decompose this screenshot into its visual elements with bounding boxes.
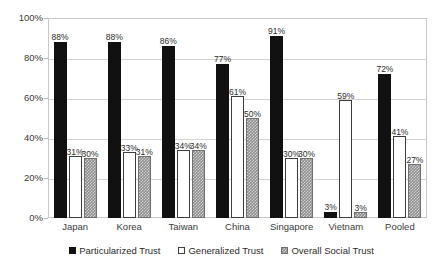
legend-label: Overall Social Trust [291,246,373,256]
bar-slot: 34% [192,18,205,218]
bar-value-label: 3% [355,204,367,213]
bar[interactable]: 77% [216,64,229,218]
bar[interactable]: 3% [354,212,367,218]
bar-slot: 50% [246,18,259,218]
bar-value-label: 3% [325,203,337,212]
bar-slot: 3% [324,18,337,218]
y-axis-tick-mark [44,218,48,219]
bar-slot: 88% [54,18,67,218]
bar-value-label: 30% [82,150,99,159]
bar-slot: 61% [231,18,244,218]
bar-slot: 41% [393,18,406,218]
bar-slot: 31% [138,18,151,218]
y-axis-tick-label: 40% [0,133,43,143]
bar[interactable]: 27% [408,164,421,218]
bar-value-label: 72% [376,65,393,74]
legend-item[interactable]: Particularized Trust [69,246,160,256]
bar[interactable]: 88% [108,42,121,218]
bar-value-label: 41% [391,128,408,137]
bar-value-label: 27% [406,156,423,165]
bar-chart: 0%20%40%60%80%100% 88%31%30%88%33%31%86%… [0,0,443,265]
bar[interactable]: 34% [192,150,205,218]
x-axis: JapanKoreaTaiwanChinaSingaporeVietnamPoo… [48,222,427,232]
bar-slot: 34% [177,18,190,218]
bar-group: 88%33%31% [102,18,156,218]
bar[interactable]: 59% [339,100,352,218]
bar-value-label: 30% [298,150,315,159]
y-axis-tick-label: 100% [0,13,43,23]
bar[interactable]: 33% [123,152,136,218]
legend-label: Particularized Trust [79,246,160,256]
x-axis-tick-label: Singapore [265,222,319,232]
bar[interactable]: 3% [324,212,337,218]
bar-value-label: 31% [136,148,153,157]
legend-swatch-icon [178,247,185,254]
chart-legend: Particularized TrustGeneralized TrustOve… [0,246,443,256]
bar-slot: 88% [108,18,121,218]
y-axis-tick-label: 60% [0,93,43,103]
legend-swatch-icon [69,247,76,254]
bar-slot: 31% [69,18,82,218]
bar-group: 77%61%50% [210,18,264,218]
bar[interactable]: 41% [393,136,406,218]
bar[interactable]: 31% [138,156,151,218]
bar-value-label: 77% [214,55,231,64]
bar[interactable]: 88% [54,42,67,218]
y-axis-tick-label: 20% [0,173,43,183]
bar[interactable]: 30% [300,158,313,218]
bar[interactable]: 31% [69,156,82,218]
bar-slot: 3% [354,18,367,218]
bar[interactable]: 30% [285,158,298,218]
bar-slot: 59% [339,18,352,218]
bar-value-label: 91% [268,27,285,36]
bar-group: 91%30%30% [265,18,319,218]
bar-slot: 30% [84,18,97,218]
bar-value-label: 61% [229,88,246,97]
bar[interactable]: 30% [84,158,97,218]
bar-slot: 27% [408,18,421,218]
bar-group: 3%59%3% [319,18,373,218]
x-axis-tick-label: Vietnam [319,222,373,232]
bar-value-label: 34% [190,142,207,151]
legend-label: Generalized Trust [188,246,263,256]
bar-slot: 91% [270,18,283,218]
bar-slot: 30% [300,18,313,218]
bar-slot: 30% [285,18,298,218]
bar[interactable]: 91% [270,36,283,218]
bar-value-label: 59% [337,92,354,101]
bar[interactable]: 61% [231,96,244,218]
bar-slot: 72% [378,18,391,218]
y-axis-tick-label: 0% [0,213,43,223]
bar[interactable]: 34% [177,150,190,218]
x-axis-tick-label: Taiwan [156,222,210,232]
bar[interactable]: 50% [246,118,259,218]
x-axis-tick-label: Korea [102,222,156,232]
legend-item[interactable]: Overall Social Trust [281,246,373,256]
legend-swatch-icon [281,247,288,254]
bar-value-label: 86% [160,37,177,46]
bar-slot: 77% [216,18,229,218]
bar[interactable]: 72% [378,74,391,218]
bar-groups: 88%31%30%88%33%31%86%34%34%77%61%50%91%3… [48,18,427,218]
bar[interactable]: 86% [162,46,175,218]
x-axis-tick-label: China [210,222,264,232]
bar-group: 72%41%27% [373,18,427,218]
bar-value-label: 50% [244,110,261,119]
bar-group: 88%31%30% [48,18,102,218]
legend-item[interactable]: Generalized Trust [178,246,263,256]
bar-value-label: 88% [106,33,123,42]
x-axis-tick-label: Pooled [373,222,427,232]
bar-slot: 86% [162,18,175,218]
y-axis-tick-label: 80% [0,53,43,63]
bar-slot: 33% [123,18,136,218]
x-axis-tick-label: Japan [48,222,102,232]
bar-group: 86%34%34% [156,18,210,218]
bar-value-label: 88% [52,33,69,42]
